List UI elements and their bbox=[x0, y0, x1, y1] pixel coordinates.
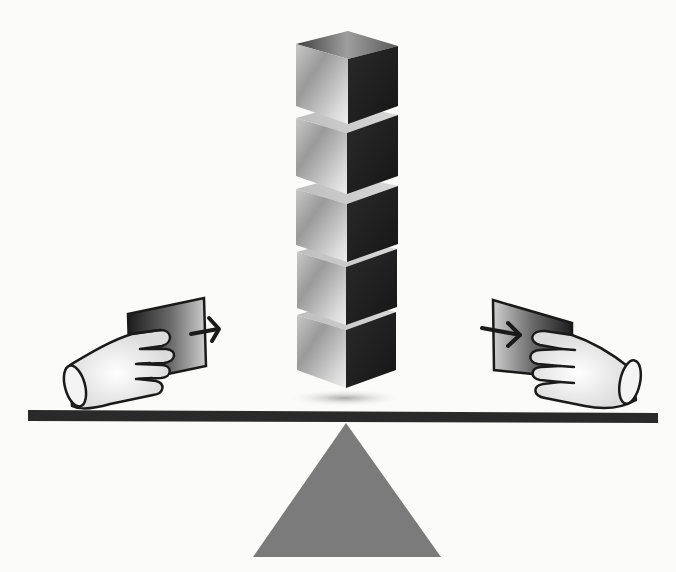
cube-1 bbox=[296, 31, 398, 124]
cube-stack bbox=[296, 31, 398, 388]
fulcrum-triangle bbox=[253, 423, 441, 557]
left-hand-with-card bbox=[60, 298, 219, 409]
balance-diagram: Balance scale with stacked cubes and han… bbox=[0, 0, 676, 572]
right-hand-with-card bbox=[482, 300, 644, 408]
cube-shadow bbox=[285, 389, 405, 407]
balance-beam bbox=[28, 410, 658, 423]
